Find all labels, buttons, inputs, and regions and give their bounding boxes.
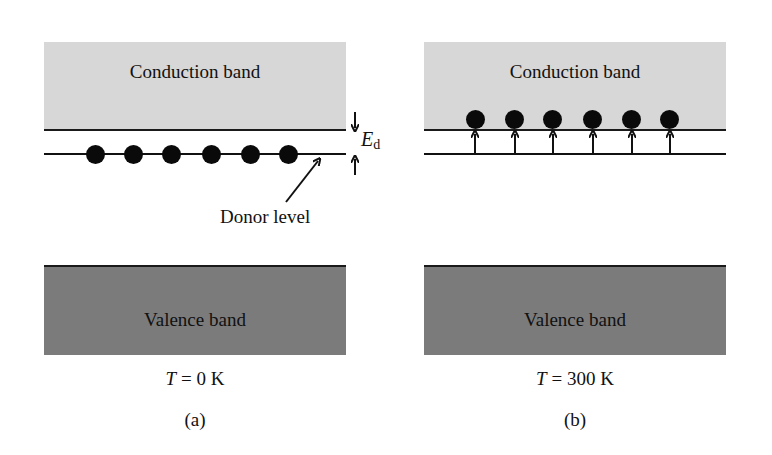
valence-band-label-a: Valence band (44, 310, 346, 330)
electron-icon (124, 145, 143, 164)
energy-gap-symbol: E (361, 128, 373, 150)
panel-caption-b: (b) (424, 409, 726, 431)
energy-gap-label: Ed (361, 128, 380, 153)
energy-gap-subscript: d (373, 137, 380, 152)
temperature-label-b: T = 300 K (424, 368, 726, 390)
valence-band-a: Valence band (44, 265, 346, 355)
electron-icon (622, 110, 641, 129)
electron-icon (543, 110, 562, 129)
conduction-band-label-a: Conduction band (44, 62, 346, 82)
electron-icon (583, 110, 602, 129)
conduction-band-a: Conduction band (44, 42, 346, 131)
electron-icon (505, 110, 524, 129)
temperature-label-a: T = 0 K (44, 368, 346, 390)
conduction-band-label-b: Conduction band (424, 62, 726, 82)
temperature-value: = 300 K (547, 368, 614, 389)
electron-icon (466, 110, 485, 129)
donor-level-line-b (424, 153, 726, 155)
panel-caption-a: (a) (44, 409, 346, 431)
donor-level-label: Donor level (220, 206, 310, 228)
electron-icon (86, 145, 105, 164)
temperature-value: = 0 K (176, 368, 224, 389)
valence-band-label-b: Valence band (424, 310, 726, 330)
temperature-symbol: T (536, 368, 547, 389)
panel-b: Conduction band Valence band T = 300 K (… (424, 0, 726, 455)
electron-icon (162, 145, 181, 164)
temperature-symbol: T (166, 368, 177, 389)
electron-icon (202, 145, 221, 164)
electron-icon (241, 145, 260, 164)
valence-band-b: Valence band (424, 265, 726, 355)
electron-icon (660, 110, 679, 129)
electron-icon (279, 145, 298, 164)
